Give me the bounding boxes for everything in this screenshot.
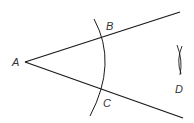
ray-ab [25, 12, 180, 62]
label-a: A [11, 56, 19, 68]
label-b: B [106, 20, 113, 32]
angle-bisection-diagram: A B C D [0, 0, 194, 123]
label-d: D [175, 83, 183, 95]
ray-ac [25, 62, 183, 118]
label-c: C [103, 97, 111, 109]
